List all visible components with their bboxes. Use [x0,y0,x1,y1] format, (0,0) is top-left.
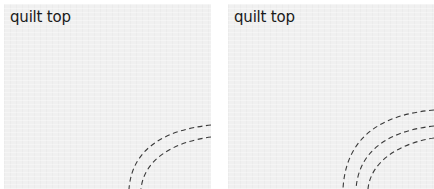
quilt-panel-right: quilt top [228,4,434,189]
seam-lines-left [4,4,211,189]
quilt-panel-left: quilt top [4,4,211,189]
seam-line-outer [129,125,211,189]
seam-line-outer [343,110,434,189]
seam-line-middle [356,126,434,189]
seam-lines-right [228,4,434,189]
diagram-stage: quilt top quilt top [0,0,434,189]
